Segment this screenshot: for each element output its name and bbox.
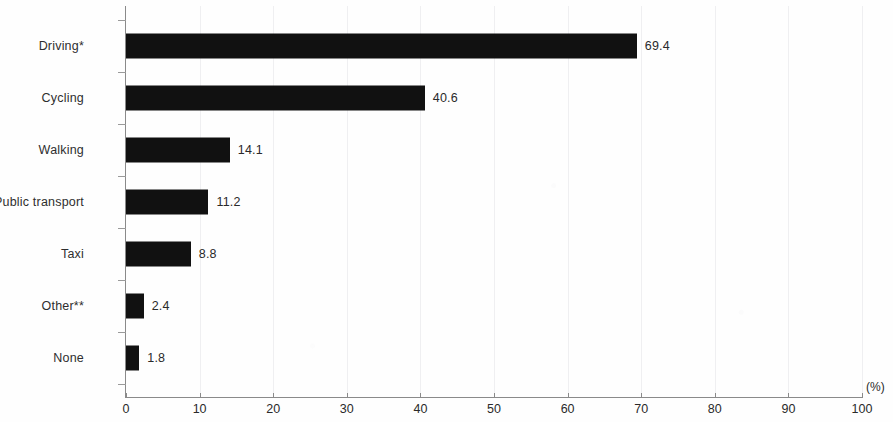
- x-axis-tick: [788, 393, 789, 398]
- x-axis-tick-label: 40: [413, 402, 427, 416]
- x-axis-tick: [641, 393, 642, 398]
- bar-row: Public transport11.2: [126, 176, 862, 228]
- category-label: Public transport: [0, 195, 84, 209]
- x-axis-tick-label: 10: [193, 402, 207, 416]
- category-label: Cycling: [42, 91, 84, 105]
- y-axis-tick: [118, 280, 126, 281]
- category-label: Walking: [39, 143, 84, 157]
- y-axis-tick: [118, 384, 126, 385]
- bar: [126, 294, 144, 319]
- x-axis-tick: [420, 393, 421, 398]
- y-axis-tick: [118, 20, 126, 21]
- category-label: Taxi: [61, 247, 84, 261]
- bar: [126, 242, 191, 267]
- x-axis-tick-label: 100: [852, 402, 873, 416]
- x-axis-tick-label: 20: [266, 402, 280, 416]
- x-axis-unit-label: (%): [866, 380, 885, 394]
- x-axis-tick: [568, 393, 569, 398]
- bar: [126, 86, 425, 111]
- bar: [126, 138, 230, 163]
- x-axis-tick: [126, 393, 127, 398]
- x-axis-tick-label: 60: [561, 402, 575, 416]
- plot-area: Driving*69.4Cycling40.6Walking14.1Public…: [126, 6, 862, 398]
- category-label: Other**: [42, 299, 84, 313]
- x-axis-tick-label: 90: [781, 402, 795, 416]
- x-axis-tick-label: 70: [634, 402, 648, 416]
- bar-row: None1.8: [126, 332, 862, 384]
- bar-value-label: 40.6: [433, 91, 458, 105]
- y-axis-line: [125, 6, 126, 398]
- bar: [126, 34, 637, 59]
- x-axis-tick-label: 80: [708, 402, 722, 416]
- bar-value-label: 2.4: [152, 299, 170, 313]
- bar-row: Cycling40.6: [126, 72, 862, 124]
- x-axis-tick: [715, 393, 716, 398]
- category-label: Driving*: [39, 39, 84, 53]
- bar-row: Other**2.4: [126, 280, 862, 332]
- bar-row: Driving*69.4: [126, 20, 862, 72]
- x-axis-tick-label: 50: [487, 402, 501, 416]
- bar-value-label: 1.8: [147, 351, 165, 365]
- y-axis-tick: [118, 176, 126, 177]
- x-axis-tick: [494, 393, 495, 398]
- bar-chart: Driving*69.4Cycling40.6Walking14.1Public…: [0, 0, 893, 422]
- x-axis-tick: [347, 393, 348, 398]
- x-axis-tick: [862, 393, 863, 398]
- gridline: [862, 6, 863, 398]
- bar-value-label: 69.4: [645, 39, 670, 53]
- y-axis-tick: [118, 228, 126, 229]
- bar-row: Taxi8.8: [126, 228, 862, 280]
- x-axis-tick: [200, 393, 201, 398]
- bar-value-label: 11.2: [216, 195, 240, 209]
- y-axis-tick: [118, 124, 126, 125]
- bar-value-label: 8.8: [199, 247, 217, 261]
- bar-value-label: 14.1: [238, 143, 263, 157]
- y-axis-tick: [118, 72, 126, 73]
- bar-row: Walking14.1: [126, 124, 862, 176]
- x-axis-tick: [273, 393, 274, 398]
- bar: [126, 190, 208, 215]
- y-axis-tick: [118, 332, 126, 333]
- x-axis-tick-label: 0: [123, 402, 130, 416]
- category-label: None: [53, 351, 84, 365]
- x-axis-tick-label: 30: [340, 402, 354, 416]
- bar: [126, 346, 139, 371]
